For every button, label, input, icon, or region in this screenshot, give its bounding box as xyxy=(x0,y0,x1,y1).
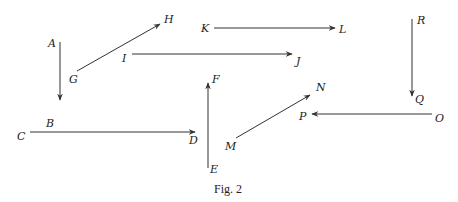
vector-diagram xyxy=(0,0,458,202)
point-label-j: J xyxy=(296,56,300,67)
point-label-f: F xyxy=(212,74,220,85)
point-label-p: P xyxy=(299,111,306,122)
arrow-g-h xyxy=(77,24,160,71)
point-label-q: Q xyxy=(415,94,424,105)
point-label-h: H xyxy=(164,14,174,25)
point-label-r: R xyxy=(417,15,425,26)
point-label-i: I xyxy=(122,53,126,64)
point-label-o: O xyxy=(435,113,444,124)
point-label-c: C xyxy=(17,131,25,142)
point-label-l: L xyxy=(339,24,346,35)
point-label-n: N xyxy=(316,82,326,93)
figure-caption: Fig. 2 xyxy=(214,182,242,197)
point-label-a: A xyxy=(48,38,56,49)
point-label-k: K xyxy=(201,23,209,34)
point-label-b: B xyxy=(46,118,54,129)
point-label-e: E xyxy=(210,164,218,175)
point-label-m: M xyxy=(225,141,236,152)
point-label-d: D xyxy=(189,135,198,146)
point-label-g: G xyxy=(69,74,78,85)
